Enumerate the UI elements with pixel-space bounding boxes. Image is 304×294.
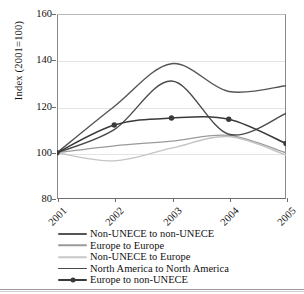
series-marker <box>112 122 117 127</box>
plot-area <box>57 14 286 199</box>
chart-legend: Non-UNECE to non-UNECEEurope to EuropeNo… <box>58 228 288 286</box>
y-tick-mark <box>52 60 56 61</box>
y-tick-mark <box>52 14 56 15</box>
footer-rule <box>0 289 304 290</box>
legend-line-swatch <box>58 251 87 262</box>
legend-item[interactable]: Europe to Europe <box>58 240 288 252</box>
legend-label: Europe to Europe <box>90 240 164 252</box>
y-axis-tick-labels: 16014012010080 <box>14 14 52 199</box>
legend-label: Non-UNECE to Europe <box>90 251 190 263</box>
y-tick-label: 120 <box>18 102 52 112</box>
legend-item[interactable]: Non-UNECE to non-UNECE <box>58 228 288 240</box>
series-canvas <box>57 14 286 199</box>
y-tick-label: 100 <box>18 148 52 158</box>
series-marker <box>169 115 174 120</box>
legend-item[interactable]: Europe to non-UNECE <box>58 274 288 286</box>
legend-marker-icon <box>70 278 75 283</box>
y-tick-label: 160 <box>18 9 52 19</box>
y-tick-label: 140 <box>18 55 52 65</box>
legend-line-swatch <box>58 263 87 274</box>
legend-item[interactable]: North America to North America <box>58 263 288 275</box>
legend-line-swatch <box>58 228 87 239</box>
y-tick-mark <box>52 153 56 154</box>
legend-line-swatch <box>58 275 87 286</box>
series-line <box>57 117 286 153</box>
series-marker <box>226 117 231 122</box>
legend-label: Europe to non-UNECE <box>90 274 188 286</box>
y-tick-mark <box>52 107 56 108</box>
legend-label: North America to North America <box>90 263 229 275</box>
legend-line-swatch <box>58 240 87 251</box>
series-marker <box>283 141 286 146</box>
legend-item[interactable]: Non-UNECE to Europe <box>58 251 288 263</box>
series-line <box>57 135 286 153</box>
chart-figure: Index (2001=100) 16014012010080 20012002… <box>0 0 304 294</box>
series-line <box>57 64 286 153</box>
footer-rule-shadow <box>0 291 304 292</box>
legend-label: Non-UNECE to non-UNECE <box>90 228 214 240</box>
